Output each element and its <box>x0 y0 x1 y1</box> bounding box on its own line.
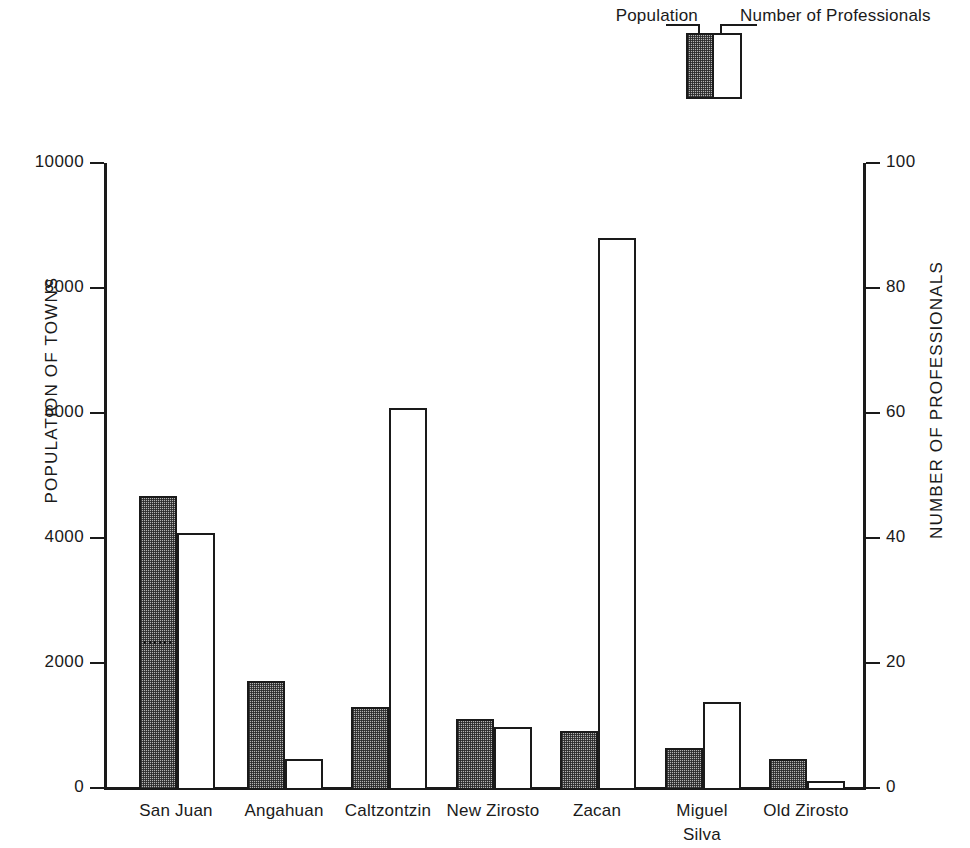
bars <box>556 163 642 790</box>
bar-population[interactable] <box>351 707 389 790</box>
right-tick-100 <box>866 162 880 164</box>
bar-chart: 10000 8000 6000 4000 2000 0 100 80 60 40… <box>0 0 970 848</box>
category-label-line1: Old Zirosto <box>731 799 881 823</box>
bar-population[interactable] <box>560 731 598 790</box>
right-tick-20 <box>866 662 880 664</box>
right-axis-line <box>863 163 866 790</box>
right-ticklabel-100: 100 <box>886 152 916 172</box>
bar-group-new-zirosto: New Zirosto <box>452 163 538 790</box>
left-axis-line <box>104 163 107 790</box>
bars <box>135 163 221 790</box>
bar-population[interactable] <box>456 719 494 790</box>
right-tick-0 <box>866 787 880 789</box>
bar-population[interactable] <box>139 496 177 790</box>
right-tick-80 <box>866 287 880 289</box>
right-ticklabel-20: 20 <box>886 652 906 672</box>
left-tick-6000 <box>90 412 104 414</box>
bar-group-old-zirosto: Old Zirosto <box>765 163 851 790</box>
bar-professionals[interactable] <box>285 759 323 790</box>
bar-professionals[interactable] <box>807 781 845 790</box>
bar-population[interactable] <box>769 759 807 790</box>
bar-group-angahuan: Angahuan <box>243 163 329 790</box>
bar-professionals[interactable] <box>703 702 741 790</box>
right-ticklabel-40: 40 <box>886 527 906 547</box>
bar-professionals[interactable] <box>494 727 532 790</box>
bar-population[interactable] <box>665 748 703 790</box>
right-ticklabel-0: 0 <box>886 777 896 797</box>
right-tick-40 <box>866 537 880 539</box>
category-label: Old Zirosto <box>731 799 881 823</box>
left-tick-4000 <box>90 537 104 539</box>
bar-professionals[interactable] <box>598 238 636 790</box>
right-ticklabel-80: 80 <box>886 277 906 297</box>
bar-professionals[interactable] <box>177 533 215 790</box>
bars <box>243 163 329 790</box>
right-ticklabel-60: 60 <box>886 402 906 422</box>
bars <box>452 163 538 790</box>
bar-group-caltzontzin: Caltzontzin <box>347 163 433 790</box>
left-tick-0 <box>90 787 104 789</box>
bars <box>347 163 433 790</box>
bar-population[interactable] <box>247 681 285 790</box>
bar-group-san-juan: San Juan <box>135 163 221 790</box>
population-subdivision-marker <box>144 641 172 644</box>
bars <box>661 163 747 790</box>
left-tick-10000 <box>90 162 104 164</box>
bar-group-miguel-silva: Miguel Silva <box>661 163 747 790</box>
bars <box>765 163 851 790</box>
left-ticklabel-2000: 2000 <box>45 652 84 672</box>
right-axis-title: NUMBER OF PROFESSIONALS <box>927 250 947 550</box>
right-tick-60 <box>866 412 880 414</box>
bar-professionals[interactable] <box>389 408 427 790</box>
left-ticklabel-4000: 4000 <box>45 527 84 547</box>
left-tick-2000 <box>90 662 104 664</box>
left-ticklabel-10000: 10000 <box>35 152 84 172</box>
category-label-line2: Silva <box>627 823 777 847</box>
left-ticklabel-0: 0 <box>74 777 84 797</box>
bar-group-zacan: Zacan <box>556 163 642 790</box>
left-axis-title: POPULATION OF TOWNS <box>42 260 62 520</box>
left-tick-8000 <box>90 287 104 289</box>
